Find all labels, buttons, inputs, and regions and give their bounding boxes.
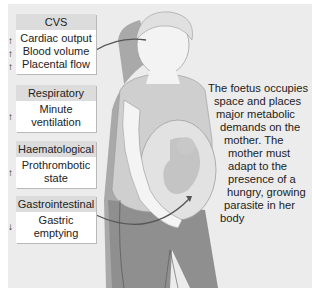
cvs-header: CVS bbox=[16, 14, 96, 30]
description-text: The foetus occupies space and places maj… bbox=[208, 82, 312, 225]
ventilation-label: ventilation bbox=[17, 116, 95, 129]
gastrointestinal-header: Gastrointestinal bbox=[16, 196, 96, 212]
arrow-up-icon: ↑ bbox=[8, 36, 13, 46]
placental-flow-label: Placental flow bbox=[17, 58, 95, 71]
prothrombotic-label: Prothrombotic bbox=[17, 159, 95, 172]
description-line: presence of a bbox=[228, 173, 312, 186]
description-line: space and places bbox=[214, 95, 312, 108]
description-line: The foetus occupies bbox=[208, 82, 312, 95]
gastric-label: Gastric bbox=[17, 214, 95, 227]
haematological-box: Haematological Prothrombotic state bbox=[16, 141, 96, 188]
description-line: mother. The bbox=[224, 134, 312, 147]
arrow-up-icon: ↑ bbox=[8, 49, 13, 59]
cvs-box: CVS Cardiac output Blood volume Placenta… bbox=[16, 14, 96, 74]
arrow-up-icon: ↑ bbox=[8, 112, 13, 122]
haematological-header: Haematological bbox=[16, 141, 96, 157]
description-line: parasite in her bbox=[224, 199, 312, 212]
cardiac-output-label: Cardiac output bbox=[17, 32, 95, 45]
arrow-up-icon: ↑ bbox=[8, 62, 13, 72]
minute-label: Minute bbox=[17, 103, 95, 116]
respiratory-box: Respiratory Minute ventilation bbox=[16, 85, 96, 132]
description-line: major metabolic bbox=[216, 108, 312, 121]
arrow-down-icon: ↓ bbox=[8, 222, 13, 232]
description-line: demands on the bbox=[220, 121, 312, 134]
respiratory-header: Respiratory bbox=[16, 85, 96, 101]
emptying-label: emptying bbox=[17, 227, 95, 240]
description-line: mother must bbox=[228, 147, 312, 160]
description-line: body bbox=[220, 212, 312, 225]
description-line: hungry, growing bbox=[227, 186, 312, 199]
blood-volume-label: Blood volume bbox=[17, 45, 95, 58]
description-line: adapt to the bbox=[228, 160, 312, 173]
arrow-up-icon: ↑ bbox=[8, 168, 13, 178]
state-label: state bbox=[17, 172, 95, 185]
gastrointestinal-box: Gastrointestinal Gastric emptying bbox=[16, 196, 96, 243]
